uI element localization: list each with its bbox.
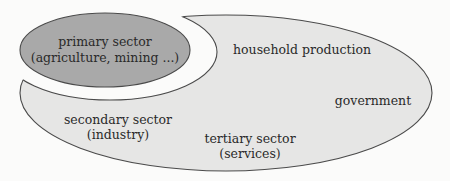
household-production-label: household production bbox=[233, 42, 371, 57]
government-label: government bbox=[335, 93, 411, 108]
secondary-sector-label: secondary sector bbox=[64, 112, 172, 127]
primary-sector-region: primary sector (agriculture, mining ...) bbox=[20, 13, 190, 87]
tertiary-sector-examples: (services) bbox=[219, 146, 280, 161]
secondary-sector-examples: (industry) bbox=[87, 127, 149, 142]
primary-sector-label: primary sector bbox=[58, 34, 152, 49]
economic-sectors-diagram: primary sector (agriculture, mining ...)… bbox=[0, 0, 450, 181]
primary-sector-examples: (agriculture, mining ...) bbox=[31, 50, 179, 65]
tertiary-sector-label: tertiary sector bbox=[204, 131, 295, 146]
